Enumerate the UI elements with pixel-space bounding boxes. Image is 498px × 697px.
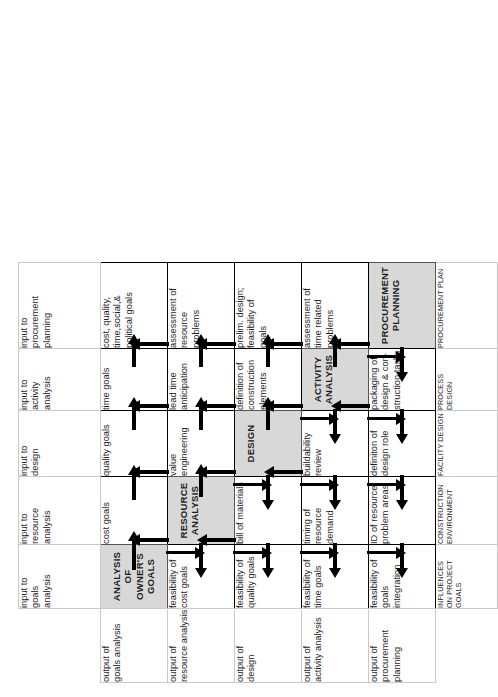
- matrix-row-goals-analysis: output of goals analysis ANALYSIS OF OWN…: [101, 263, 168, 683]
- arrow-up: [273, 404, 303, 407]
- cell-bill-of-materials: bill of materials: [235, 477, 302, 545]
- arrow-down: [367, 417, 397, 420]
- matrix-footer-row: INFLUENCES ON PROJECT GOALS CONSTRUCTION…: [436, 263, 498, 683]
- cell-text: bill of materials: [235, 482, 245, 544]
- arrow-up: [139, 404, 169, 407]
- footer-label-process-design: PROCESS DESIGN: [436, 349, 498, 411]
- row-header-resource-analysis: output of resource analysis: [168, 609, 235, 683]
- column-header-resource-analysis: input to resource analysis: [19, 477, 101, 545]
- cell-definition-of-design-role: definiton of design role: [369, 411, 436, 477]
- cell-text: feasibility of quality goals: [235, 556, 256, 608]
- cell-buildability-review: buildability review: [302, 411, 369, 477]
- arrow-up: [340, 342, 370, 345]
- cell-analysis-of-owners-goals: ANALYSIS OF OWNER'S GOALS: [101, 545, 168, 609]
- arrow-down: [367, 551, 397, 554]
- footer-corner: [436, 609, 498, 683]
- cell-text: RESOURCE ANALYSIS: [178, 483, 200, 539]
- cell-definition-of-construction-elements: definition of construction elements: [235, 349, 302, 411]
- cell-text: ACTIVITY ANALYSIS: [312, 355, 334, 404]
- arrow-down: [367, 483, 397, 486]
- arrow-down: [300, 417, 330, 420]
- cell-feasibility-of-quality-goals: feasibility of quality goals: [235, 545, 302, 609]
- arrow-down: [300, 483, 330, 486]
- arrow-up: [139, 538, 169, 541]
- cell-lead-time-anticipation: lead time anticipation: [168, 349, 235, 411]
- cell-text: quality goals: [101, 424, 111, 476]
- arrow-up: [273, 470, 303, 473]
- cell-quality-goals: quality goals: [101, 411, 168, 477]
- cell-text: feasibility of time goals: [302, 559, 323, 608]
- arrow-up: [273, 342, 303, 345]
- cell-packaging-of-design-and-construction-tasks: packaging of design & con- struction tas…: [369, 349, 436, 411]
- project-definition-matrix: input to goals analysis input to resourc…: [18, 262, 498, 683]
- cell-id-of-resource-problem-areas: ID of resource problem areas: [369, 477, 436, 545]
- arrow-up: [139, 342, 169, 345]
- cell-procurement-planning: PROCUREMENT PLANNING: [369, 263, 436, 349]
- matrix-corner: [19, 609, 101, 683]
- footer-label-procurement-plan: PROCUREMENT PLAN: [436, 263, 498, 349]
- column-header-design: input to design: [19, 411, 101, 477]
- cell-text: feasibility of cost goals: [168, 559, 189, 608]
- arrow-down: [300, 551, 330, 554]
- cell-feasibility-of-cost-goals: feasibility of cost goals: [168, 545, 235, 609]
- cell-text: DESIGN: [245, 425, 256, 463]
- matrix-header-row: input to goals analysis input to resourc…: [19, 263, 101, 683]
- matrix-row-resource-analysis: output of resource analysis feasibility …: [168, 263, 235, 683]
- cell-timing-of-resource-demand: timing of resource demand: [302, 477, 369, 545]
- matrix-row-procurement-planning: output of procurement planning feasibili…: [369, 263, 436, 683]
- cell-text: time goals: [101, 368, 111, 410]
- cell-text: value engineering: [168, 427, 189, 476]
- cell-time-goals: time goals: [101, 349, 168, 411]
- cell-text: PROCUREMENT PLANNING: [379, 267, 401, 344]
- cell-activity-analysis: ACTIVITY ANALYSIS: [302, 349, 369, 411]
- cell-value-engineering: value engineering: [168, 411, 235, 477]
- arrow-down: [166, 551, 196, 554]
- column-header-procurement-planning: input to procurement planning: [19, 263, 101, 349]
- cell-text: feasibility of goals integration: [369, 559, 402, 608]
- footer-label-influences-on-project-goals: INFLUENCES ON PROJECT GOALS: [436, 545, 498, 609]
- arrow-up: [139, 470, 169, 473]
- row-header-procurement-planning: output of procurement planning: [369, 609, 436, 683]
- arrow-down: [233, 551, 263, 554]
- footer-label-facility-design: FACILITY DESIGN: [436, 411, 498, 477]
- footer-label-construction-environment: CONSTRUCTION ENVIRONMENT: [436, 477, 498, 545]
- matrix-row-activity-analysis: output of activity analysis feasibility …: [302, 263, 369, 683]
- cell-feasibility-of-time-goals: feasibility of time goals: [302, 545, 369, 609]
- arrow-up: [340, 404, 370, 407]
- cell-resource-analysis: RESOURCE ANALYSIS: [168, 477, 235, 545]
- cell-text: buildability review: [302, 433, 323, 476]
- arrow-down: [233, 483, 263, 486]
- row-header-design: output of design: [235, 609, 302, 683]
- column-header-activity-analysis: input to activity analysis: [19, 349, 101, 411]
- matrix-row-design: output of design feasibility of quality …: [235, 263, 302, 683]
- cell-cost-goals: cost goals: [101, 477, 168, 545]
- cell-text: lead time anticipation: [168, 363, 189, 410]
- column-header-goals-analysis: input to goals analysis: [19, 545, 101, 609]
- arrow-up: [206, 470, 236, 473]
- arrow-up: [206, 342, 236, 345]
- cell-text: definiton of design role: [369, 431, 390, 477]
- cell-text: ID of resource problem areas: [369, 485, 390, 544]
- cell-feasibility-of-goals-integration: feasibility of goals integration: [369, 545, 436, 609]
- row-header-activity-analysis: output of activity analysis: [302, 609, 369, 683]
- cell-design: DESIGN: [235, 411, 302, 477]
- cell-text: timing of resource demand: [302, 508, 335, 544]
- row-header-goals-analysis: output of goals analysis: [101, 609, 168, 683]
- arrow-up: [206, 404, 236, 407]
- arrow-down: [367, 355, 397, 358]
- arrow-up: [206, 538, 236, 541]
- cell-text: cost goals: [101, 502, 111, 544]
